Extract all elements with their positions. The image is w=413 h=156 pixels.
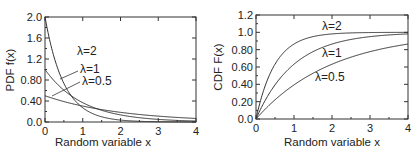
pdf-leader-line-1 <box>60 71 78 79</box>
x-tick-label: 0 <box>42 125 48 137</box>
pdf-annotation-lambda-0.5: λ=0.5 <box>82 74 112 88</box>
curve-λ=1 <box>45 70 196 122</box>
pdf-y-axis-label: PDF f(x) <box>4 48 16 91</box>
y-tick-label: 0.60 <box>232 61 253 73</box>
y-tick-label: 0.80 <box>232 44 253 56</box>
x-tick-label: 4 <box>193 125 199 137</box>
y-tick-label: 0.0 <box>238 113 253 125</box>
x-tick-label: 2 <box>329 122 335 134</box>
cdf-annotation-lambda-2: λ=2 <box>322 19 342 33</box>
cdf-y-axis-label: CDF F(x) <box>212 43 224 90</box>
x-tick-label: 4 <box>405 122 411 134</box>
x-tick-label: 1 <box>291 122 297 134</box>
y-tick-label: 2.0 <box>27 11 42 23</box>
y-tick-label: 1.0 <box>238 26 253 38</box>
pdf-x-axis-label: Random variable x <box>55 136 151 148</box>
cdf-y-ticks: 0.00.200.400.600.801.01.2 <box>232 9 408 125</box>
cdf-annotation-lambda-0.5: λ=0.5 <box>315 70 345 84</box>
pdf-x-ticks: 01234 <box>42 17 199 137</box>
y-tick-label: 0.20 <box>232 96 253 108</box>
y-tick-label: 0.0 <box>27 116 42 128</box>
y-tick-label: 0.80 <box>21 74 42 86</box>
y-tick-label: 1.2 <box>27 53 42 65</box>
cdf-x-axis-label: Random variable x <box>284 136 380 148</box>
x-tick-label: 0 <box>253 122 259 134</box>
x-tick-label: 3 <box>155 125 161 137</box>
pdf-curves <box>45 17 196 122</box>
pdf-chart: 0.00.400.801.21.62.0 01234 Random variab… <box>4 11 199 148</box>
pdf-annotation-lambda-2: λ=2 <box>77 44 97 58</box>
y-tick-label: 0.40 <box>232 78 253 90</box>
y-tick-label: 0.40 <box>21 95 42 107</box>
x-tick-label: 3 <box>367 122 373 134</box>
cdf-chart: 0.00.200.400.600.801.01.2 01234 Random v… <box>212 9 411 148</box>
y-tick-label: 1.6 <box>27 32 42 44</box>
pdf-plot-frame <box>45 17 196 122</box>
figure: 0.00.400.801.21.62.0 01234 Random variab… <box>0 0 413 156</box>
cdf-annotation-lambda-1: λ=1 <box>322 46 342 60</box>
curve-λ=2 <box>45 17 196 122</box>
y-tick-label: 1.2 <box>238 9 253 21</box>
pdf-leader-line-0.5 <box>52 82 80 96</box>
